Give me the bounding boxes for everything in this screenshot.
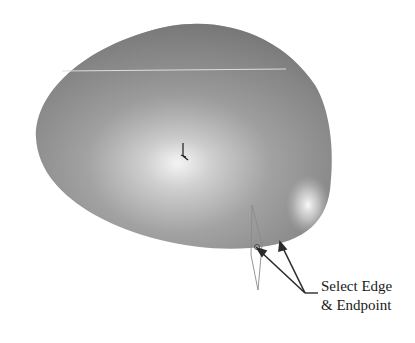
side-highlight: [286, 175, 330, 235]
callout-line-1: Select Edge: [321, 277, 392, 296]
callout-label: Select Edge & Endpoint: [321, 277, 392, 315]
callout-leader-arrows: [257, 242, 318, 293]
callout-line-2: & Endpoint: [321, 296, 392, 315]
